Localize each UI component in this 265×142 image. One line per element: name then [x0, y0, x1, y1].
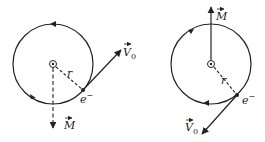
- left-orbit-arrow-top-icon: [50, 21, 56, 27]
- right-velocity-arrow: [202, 95, 237, 134]
- left-orbit-arrow-bottom-icon: [30, 94, 36, 99]
- right-radius-label: r: [221, 74, 227, 87]
- left-moment-label: M: [63, 119, 76, 132]
- left-radius-label: r: [67, 67, 73, 80]
- right-velocity-label: V0: [185, 121, 198, 136]
- left-velocity-label: V0: [123, 46, 136, 61]
- right-orbit-arrow-bottom-icon: [203, 100, 209, 106]
- orbit-diagrams: r e− V0 M r e− V0 M: [0, 0, 265, 142]
- left-diagram: r e− V0 M: [13, 21, 136, 132]
- right-diagram: r e− V0 M: [171, 7, 255, 136]
- right-orbit-arrow-top-icon: [188, 29, 194, 34]
- left-electron-label: e−: [80, 91, 93, 106]
- right-electron-label: e−: [242, 92, 255, 107]
- left-velocity-arrow: [83, 50, 121, 90]
- right-moment-label: M: [215, 10, 228, 23]
